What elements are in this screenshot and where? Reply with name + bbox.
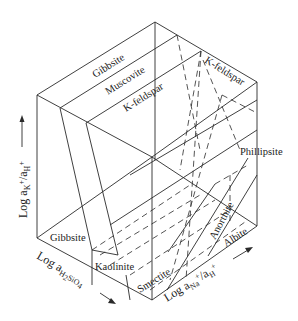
left-depth-axis-arrow-icon xyxy=(100,293,116,304)
svg-text:Log aH2SiO4: Log aH2SiO4 xyxy=(33,248,89,291)
svg-text:Log aNa+/aH+: Log aNa+/aH+ xyxy=(161,260,221,306)
right-depth-axis-arrow-icon xyxy=(233,247,253,259)
label-k-feldspar-right: K-feldspar xyxy=(203,54,247,87)
axis-label-h4sio4: Log aH2SiO4 xyxy=(33,248,89,291)
vertical-axis-arrow-icon xyxy=(20,115,25,147)
stability-diagram: Gibbsite Muscovite K-feldspar K-feldspar… xyxy=(0,0,298,321)
mid-plane xyxy=(110,100,257,226)
axis-label-vertical: Log aK+/aH+ xyxy=(16,161,32,218)
axis-label-na: Log aNa+/aH+ xyxy=(161,260,221,306)
block-diagram-svg: Gibbsite Muscovite K-feldspar K-feldspar… xyxy=(0,0,298,321)
label-gibbsite-bottom: Gibbsite xyxy=(50,232,86,243)
label-kaolinite: Kaolinite xyxy=(95,261,134,272)
svg-text:Log aK+/aH+: Log aK+/aH+ xyxy=(16,161,32,218)
label-phillipsite: Phillipsite xyxy=(240,146,283,157)
